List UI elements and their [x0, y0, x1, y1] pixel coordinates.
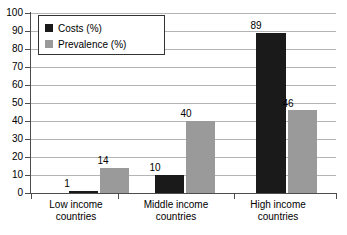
x-category-label-middle-income: Middle income countries: [130, 199, 222, 223]
x-tick-end: [336, 194, 337, 199]
x-category-label-high-income: High income countries: [232, 199, 324, 223]
x-category-label-high-income-line2: countries: [232, 211, 324, 223]
y-tick-label-20: 20: [1, 152, 23, 162]
bar-costs-middle-income: [155, 175, 184, 193]
x-axis-line: [31, 193, 337, 194]
chart-legend: Costs (%) Prevalence (%): [38, 15, 165, 55]
y-tick-label-0: 0: [1, 188, 23, 198]
y-tick-label-60: 60: [1, 80, 23, 90]
legend-label-prevalence: Prevalence (%): [58, 39, 126, 50]
value-label-prevalence-low-income: 14: [91, 155, 115, 166]
x-category-label-middle-income-line1: Middle income: [130, 199, 222, 211]
legend-label-costs: Costs (%): [58, 23, 102, 34]
legend-item-prevalence: Prevalence (%): [45, 36, 158, 52]
y-tick-label-10: 10: [1, 170, 23, 180]
value-label-costs-high-income: 89: [244, 20, 268, 31]
value-label-costs-middle-income: 10: [143, 162, 167, 173]
bar-chart: 100 90 80 70 60 50 40 30 20 10 0: [0, 0, 347, 235]
y-tick-label-40: 40: [1, 116, 23, 126]
y-axis-labels: 100 90 80 70 60 50 40 30 20 10 0: [0, 0, 23, 235]
y-tick-label-100: 100: [1, 8, 23, 18]
x-category-label-middle-income-line2: countries: [130, 211, 222, 223]
legend-item-costs: Costs (%): [45, 20, 158, 36]
x-category-label-high-income-line1: High income: [232, 199, 324, 211]
bar-prevalence-middle-income: [186, 121, 215, 193]
y-tick-label-80: 80: [1, 44, 23, 54]
bar-costs-high-income: [256, 33, 286, 193]
bar-prevalence-high-income: [288, 110, 317, 193]
y-tick-label-90: 90: [1, 26, 23, 36]
x-category-label-low-income-line1: Low income: [32, 199, 120, 211]
bar-prevalence-low-income: [100, 168, 129, 193]
legend-swatch-costs-icon: [45, 24, 53, 32]
y-tick-label-70: 70: [1, 62, 23, 72]
legend-swatch-prevalence-icon: [45, 40, 53, 48]
y-tick-label-50: 50: [1, 98, 23, 108]
value-label-prevalence-middle-income: 40: [174, 108, 198, 119]
value-label-costs-low-income: 1: [55, 178, 79, 189]
x-category-label-low-income-line2: countries: [32, 211, 120, 223]
value-label-prevalence-high-income: 46: [276, 98, 300, 109]
y-tick-label-30: 30: [1, 134, 23, 144]
y-axis-line: [30, 12, 31, 194]
x-category-label-low-income: Low income countries: [32, 199, 120, 223]
